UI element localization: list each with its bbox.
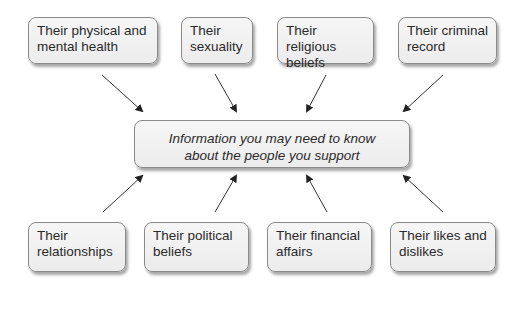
arrow-financial	[307, 176, 327, 212]
node-text-line1: Their physical and	[37, 23, 149, 39]
arrow-political	[215, 176, 236, 212]
node-likes-dislikes: Their likes and dislikes	[390, 222, 496, 272]
central-node: Information you may need to know about t…	[134, 120, 410, 168]
node-financial-affairs: Their financial affairs	[267, 222, 372, 272]
central-text-line1: Information you may need to know	[143, 130, 401, 147]
node-religious-beliefs: Their religious beliefs	[277, 17, 374, 64]
central-text-line2: about the people you support	[143, 147, 401, 164]
node-text-line1: Their	[37, 228, 117, 244]
node-text-line2: beliefs	[153, 244, 240, 260]
node-text-line2: relationships	[37, 244, 117, 260]
arrow-sexuality	[215, 74, 236, 111]
node-text-line2: beliefs	[286, 55, 365, 71]
node-text-line1: Their financial	[276, 228, 363, 244]
node-criminal-record: Their criminal record	[398, 17, 497, 64]
node-text-line2: dislikes	[399, 244, 487, 260]
node-relationships: Their relationships	[28, 222, 126, 272]
node-text-line2: mental health	[37, 39, 149, 55]
node-physical-mental-health: Their physical and mental health	[28, 17, 158, 64]
node-text-line2: record	[407, 39, 488, 55]
node-text-line1: Their religious	[286, 23, 365, 55]
node-text-line2: sexuality	[190, 39, 244, 55]
arrow-relationships	[103, 176, 142, 212]
arrow-likes	[404, 176, 443, 212]
node-sexuality: Their sexuality	[181, 17, 253, 64]
arrow-health	[102, 75, 142, 111]
node-text-line2: affairs	[276, 244, 363, 260]
arrow-religious	[307, 75, 326, 111]
node-political-beliefs: Their political beliefs	[144, 222, 249, 272]
node-text-line1: Their	[190, 23, 244, 39]
node-text-line1: Their criminal	[407, 23, 488, 39]
arrow-criminal	[404, 75, 443, 111]
node-text-line1: Their likes and	[399, 228, 487, 244]
node-text-line1: Their political	[153, 228, 240, 244]
